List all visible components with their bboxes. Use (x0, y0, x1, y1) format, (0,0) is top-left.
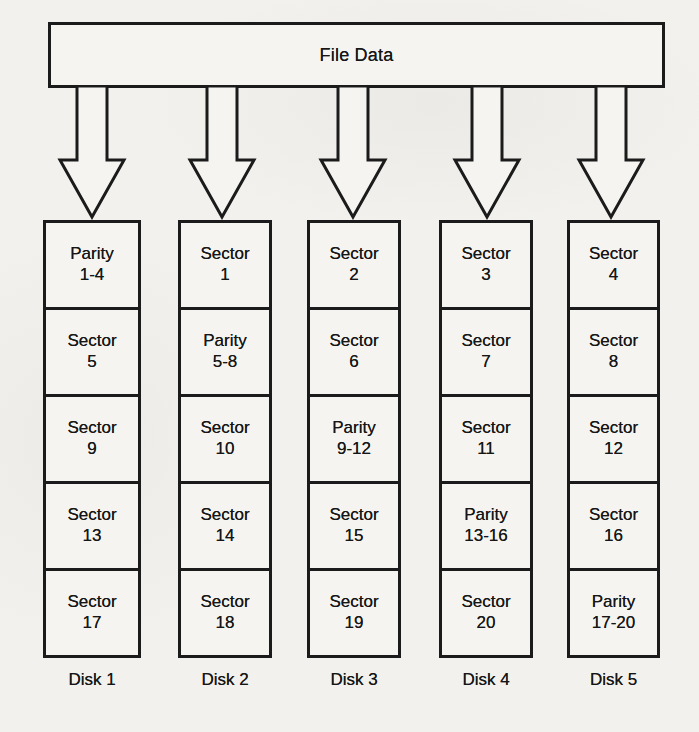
disk-label: Disk 4 (439, 668, 533, 692)
disk-cell: Sector 2 (310, 223, 398, 310)
disk-column-5: Sector 4 Sector 8 Sector 12 Sector 16 Pa… (567, 220, 660, 658)
disk-cell: Sector 18 (181, 571, 269, 655)
disk-label: Disk 5 (567, 668, 660, 692)
disk-column-4: Sector 3 Sector 7 Sector 11 Parity 13-16… (439, 220, 533, 658)
disk-cell: Sector 9 (46, 397, 138, 484)
disk-cell: Sector 14 (181, 484, 269, 571)
disk-cell: Sector 17 (46, 571, 138, 655)
disk-cell: Sector 5 (46, 310, 138, 397)
disk-cell: Sector 11 (442, 397, 530, 484)
disk-cell: Parity 17-20 (570, 571, 657, 655)
file-data-label: File Data (320, 45, 394, 66)
down-arrow-icon (318, 86, 388, 220)
disk-cell: Sector 19 (310, 571, 398, 655)
disk-label: Disk 2 (178, 668, 272, 692)
disk-cell: Sector 4 (570, 223, 657, 310)
disk-cell: Parity 9-12 (310, 397, 398, 484)
disk-cell: Parity 13-16 (442, 484, 530, 571)
disk-cell: Sector 16 (570, 484, 657, 571)
down-arrow-icon (187, 86, 257, 220)
disk-cell: Sector 3 (442, 223, 530, 310)
disk-column-2: Sector 1 Parity 5-8 Sector 10 Sector 14 … (178, 220, 272, 658)
disk-column-3: Sector 2 Sector 6 Parity 9-12 Sector 15 … (307, 220, 401, 658)
disk-cell: Sector 15 (310, 484, 398, 571)
disk-cell: Sector 20 (442, 571, 530, 655)
disk-cell: Sector 6 (310, 310, 398, 397)
down-arrow-icon (57, 86, 127, 220)
raid-striping-diagram: File Data Parity 1-4 Sector 5 Sector 9 S… (0, 0, 699, 732)
disk-cell: Parity 1-4 (46, 223, 138, 310)
disk-cell: Sector 13 (46, 484, 138, 571)
down-arrow-icon (452, 86, 522, 220)
disk-label: Disk 1 (43, 668, 141, 692)
disk-cell: Sector 7 (442, 310, 530, 397)
disk-cell: Parity 5-8 (181, 310, 269, 397)
down-arrow-icon (576, 86, 646, 220)
disk-cell: Sector 10 (181, 397, 269, 484)
file-data-box: File Data (48, 22, 665, 88)
disk-cell: Sector 1 (181, 223, 269, 310)
disk-cell: Sector 8 (570, 310, 657, 397)
disk-cell: Sector 12 (570, 397, 657, 484)
disk-column-1: Parity 1-4 Sector 5 Sector 9 Sector 13 S… (43, 220, 141, 658)
disk-label: Disk 3 (307, 668, 401, 692)
